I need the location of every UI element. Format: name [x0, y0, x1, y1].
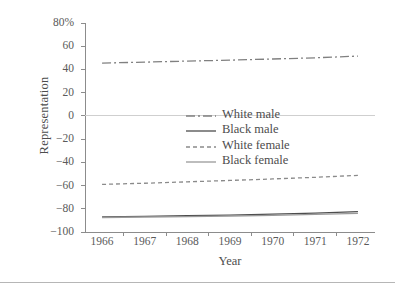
footer-divider	[0, 282, 395, 283]
x-tick-label: 1967	[122, 236, 168, 248]
legend-item-label: White male	[222, 108, 280, 121]
series-line	[102, 56, 358, 63]
x-tick-label: 1972	[335, 236, 381, 248]
x-tick-label: 1966	[79, 236, 125, 248]
legend-line-swatch	[186, 108, 216, 120]
chart-legend: White maleBlack maleWhite femaleBlack fe…	[186, 106, 336, 168]
legend-item-label: Black female	[222, 154, 288, 167]
x-tick-label: 1970	[250, 236, 296, 248]
x-tick-label: 1968	[164, 236, 210, 248]
x-tick-label: 1971	[292, 236, 338, 248]
legend-item: Black female	[186, 153, 336, 169]
x-axis-title: Year	[85, 254, 375, 269]
series-line	[102, 175, 358, 184]
legend-item: White female	[186, 137, 336, 153]
y-tick-marks	[81, 23, 85, 232]
legend-item-label: Black male	[222, 123, 279, 136]
legend-line-swatch	[186, 154, 216, 166]
legend-line-swatch	[186, 139, 216, 151]
legend-item-label: White female	[222, 139, 290, 152]
legend-item: Black male	[186, 122, 336, 138]
legend-item: White male	[186, 106, 336, 122]
legend-line-swatch	[186, 123, 216, 135]
series-line	[102, 213, 358, 217]
chart-figure: Representation 80%6040200−20−40−60−80−10…	[0, 0, 395, 288]
x-tick-label: 1969	[207, 236, 253, 248]
